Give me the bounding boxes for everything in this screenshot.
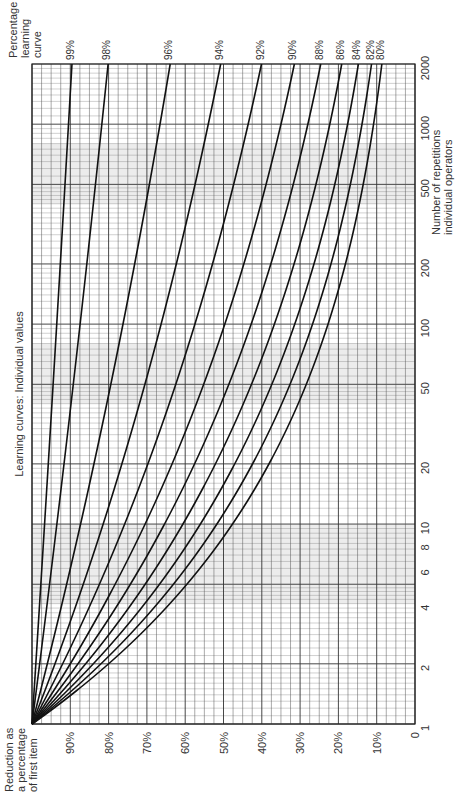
- y-tick-label: 50%: [218, 732, 230, 754]
- legend-title: curve: [31, 31, 43, 58]
- x-tick-label: 200: [419, 259, 431, 277]
- x-axis-title: individual operators: [442, 139, 454, 235]
- curve-label-92pct: 92%: [255, 40, 266, 60]
- curve-label-90pct: 90%: [287, 40, 298, 60]
- curve-label-96pct: 96%: [163, 40, 174, 60]
- x-tick-label: 4: [419, 605, 431, 611]
- curve-label-84pct: 84%: [351, 40, 362, 60]
- x-tick-label: 2000: [419, 56, 431, 80]
- y-tick-label: 40%: [256, 732, 268, 754]
- x-tick-label: 100: [419, 319, 431, 337]
- x-tick-label: 8: [419, 544, 431, 550]
- x-tick-label: 20: [419, 462, 431, 474]
- legend-title: learning: [19, 19, 31, 58]
- y-tick-label: 30%: [294, 732, 306, 754]
- y-tick-label: 20%: [332, 732, 344, 754]
- legend-title: Percentage: [7, 2, 19, 58]
- y-tick-label: 60%: [179, 732, 191, 754]
- x-tick-label: 6: [419, 569, 431, 575]
- y-tick-label: 0: [409, 732, 421, 738]
- learning-curve-chart: 99%98%96%94%92%90%88%86%84%82%80%010%20%…: [0, 0, 460, 800]
- chart-title: Learning curves: Individual values: [13, 311, 25, 477]
- x-tick-label: 1: [419, 725, 431, 731]
- curve-label-99pct: 99%: [65, 40, 76, 60]
- y-tick-label: 80%: [103, 732, 115, 754]
- x-tick-label: 10: [419, 522, 431, 534]
- y-tick-label: 70%: [141, 732, 153, 754]
- x-tick-label: 2: [419, 665, 431, 671]
- y-tick-label: 90%: [64, 732, 76, 754]
- curve-label-98pct: 98%: [101, 40, 112, 60]
- curve-label-86pct: 86%: [335, 40, 346, 60]
- y-axis-title: a percentage: [15, 728, 27, 792]
- y-axis-title: of first item: [27, 738, 39, 792]
- curve-label-88pct: 88%: [314, 40, 325, 60]
- y-tick-label: 10%: [371, 732, 383, 754]
- curve-label-80pct: 80%: [375, 40, 386, 60]
- x-axis-title: Number of repetitions: [430, 129, 442, 235]
- curve-label-94pct: 94%: [214, 40, 225, 60]
- grid: [32, 64, 415, 724]
- y-axis-title: Reduction as: [3, 727, 15, 792]
- x-tick-label: 50: [419, 382, 431, 394]
- chart-canvas: 99%98%96%94%92%90%88%86%84%82%80%010%20%…: [0, 0, 460, 800]
